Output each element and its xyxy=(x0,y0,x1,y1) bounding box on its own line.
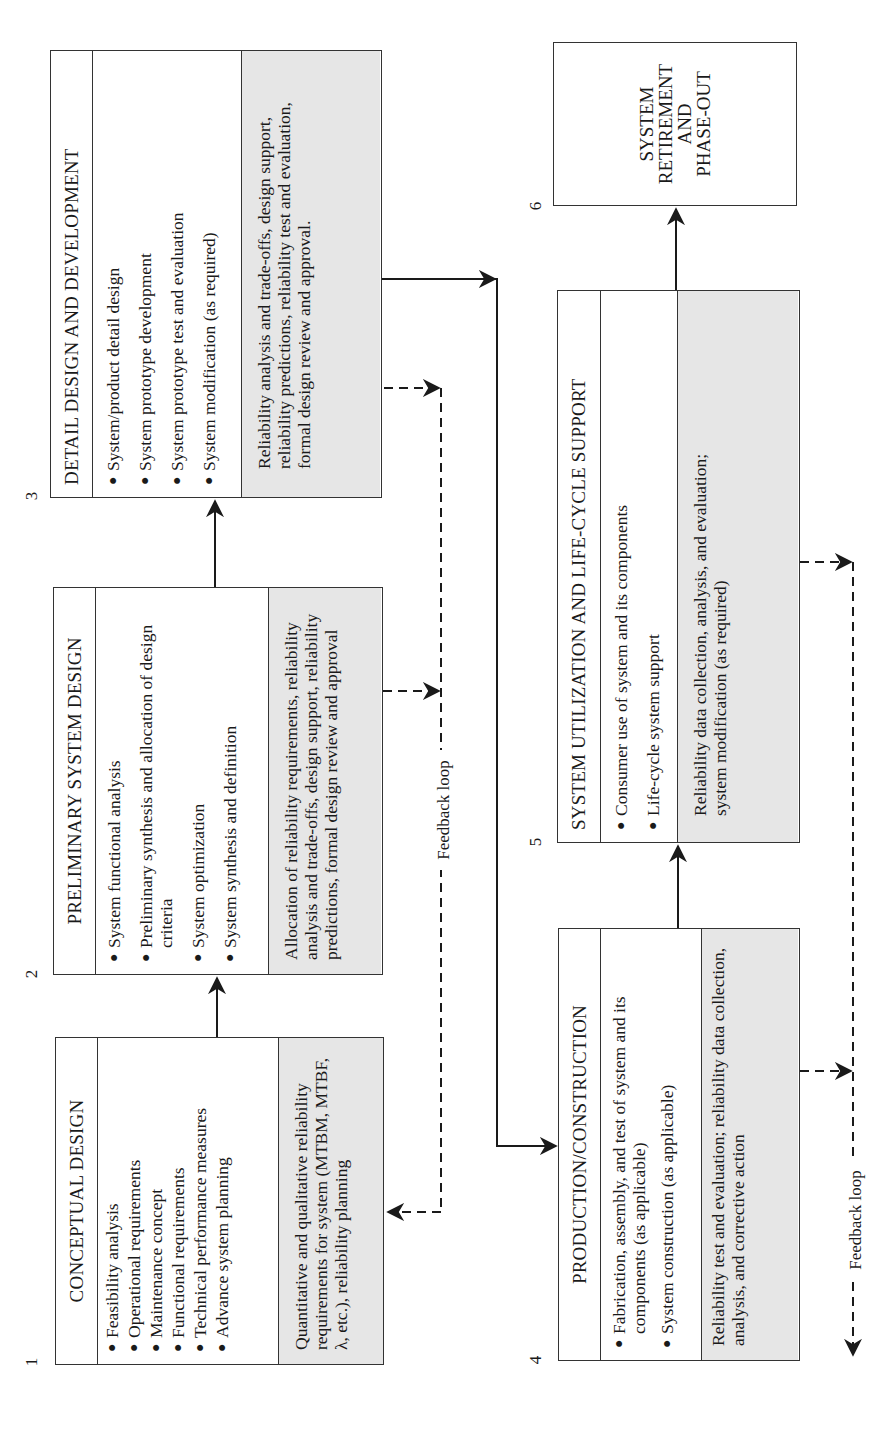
phase-number-5: 5 xyxy=(526,838,546,847)
bullet-icon: ● xyxy=(199,471,219,485)
bullet-icon: ● xyxy=(168,1338,188,1352)
feedback-loop-left xyxy=(383,388,441,1212)
activity-item: ●System construction (as applicable) xyxy=(657,939,677,1348)
activity-item: ●Life-cycle system support xyxy=(643,301,663,830)
phase-title-line: SYSTEM xyxy=(637,87,656,162)
phase-title: CONCEPTUAL DESIGN xyxy=(56,1038,98,1364)
activity-item: ●System optimization xyxy=(188,598,208,962)
activity-list: ●System/product detail design ●System pr… xyxy=(93,51,241,497)
bullet-icon: ● xyxy=(190,1338,210,1352)
reliability-tasks: Reliability analysis and trade-offs, des… xyxy=(241,51,380,497)
activity-list: ●Consumer use of system and its componen… xyxy=(601,291,677,842)
phase-box-preliminary-system-design: PRELIMINARY SYSTEM DESIGN ●System functi… xyxy=(53,587,383,975)
activity-item: ●System functional analysis xyxy=(104,598,124,962)
phase-title: PRODUCTION/CONSTRUCTION xyxy=(559,929,601,1360)
activity-item: ●Fabrication, assembly, and test of syst… xyxy=(609,939,649,1348)
phase-title: DETAIL DESIGN AND DEVELOPMENT xyxy=(51,51,93,497)
activity-list: ●System functional analysis ●Preliminary… xyxy=(96,588,268,974)
activity-item: ●Maintenance concept xyxy=(146,1048,166,1352)
bullet-icon: ● xyxy=(102,1338,122,1352)
activity-item: ●Consumer use of system and its componen… xyxy=(611,301,631,830)
phase-title-line: PHASE-OUT xyxy=(694,71,713,177)
phase-number-3: 3 xyxy=(22,492,42,501)
activity-item: ●System modification (as required) xyxy=(199,61,219,485)
bullet-icon: ● xyxy=(657,1334,677,1348)
phase-number-4: 4 xyxy=(526,1356,546,1365)
bullet-icon: ● xyxy=(188,948,208,962)
reliability-tasks: Reliability test and evaluation; reliabi… xyxy=(701,929,798,1360)
phase-number-2: 2 xyxy=(22,970,42,979)
phase-box-detail-design: DETAIL DESIGN AND DEVELOPMENT ●System/pr… xyxy=(50,50,382,498)
bullet-icon: ● xyxy=(104,948,124,962)
activity-item: ●System synthesis and definition xyxy=(220,598,240,962)
bullet-icon: ● xyxy=(135,471,155,485)
reliability-tasks: Allocation of reliability requirements, … xyxy=(268,588,381,974)
bullet-icon: ● xyxy=(167,471,187,485)
activity-item: ●System prototype development xyxy=(135,61,155,485)
arrow-3-to-4 xyxy=(382,279,556,1146)
activity-list: ●Fabrication, assembly, and test of syst… xyxy=(601,929,701,1360)
phase-box-production-construction: PRODUCTION/CONSTRUCTION ●Fabrication, as… xyxy=(558,928,800,1361)
bullet-icon: ● xyxy=(643,816,663,830)
activity-item: ●Preliminary synthesis and allocation of… xyxy=(136,598,176,962)
activity-item: ●Operational requirements xyxy=(124,1048,144,1352)
activity-item: ●System prototype test and evaluation xyxy=(167,61,187,485)
feedback-loop-label-left: Feedback loop xyxy=(434,750,454,870)
bullet-icon: ● xyxy=(124,1338,144,1352)
phase-number-1: 1 xyxy=(22,1358,42,1367)
bullet-icon: ● xyxy=(103,471,123,485)
bullet-icon: ● xyxy=(220,948,240,962)
bullet-icon: ● xyxy=(212,1338,232,1352)
activity-item: ●Advance system planning xyxy=(212,1048,232,1352)
phase-box-system-retirement: SYSTEM RETIREMENT AND PHASE-OUT xyxy=(553,42,797,206)
phase-title-line: AND xyxy=(675,103,694,144)
reliability-tasks: Reliability data collection, analysis, a… xyxy=(677,291,798,842)
phase-title: SYSTEM UTILIZATION AND LIFE-CYCLE SUPPOR… xyxy=(558,291,601,842)
activity-item: ●Technical performance measures xyxy=(190,1048,210,1352)
phase-number-6: 6 xyxy=(526,202,546,211)
phase-box-conceptual-design: CONCEPTUAL DESIGN ●Feasibility analysis … xyxy=(55,1037,384,1365)
bullet-icon: ● xyxy=(136,948,176,962)
bullet-icon: ● xyxy=(611,816,631,830)
bullet-icon: ● xyxy=(609,1334,649,1348)
reliability-tasks: Quantitative and qualitative reliability… xyxy=(278,1038,383,1364)
bullet-icon: ● xyxy=(146,1338,166,1352)
activity-list: ●Feasibility analysis ●Operational requi… xyxy=(98,1038,278,1364)
feedback-loop-label-right: Feedback loop xyxy=(846,1160,866,1280)
phase-box-system-utilization: SYSTEM UTILIZATION AND LIFE-CYCLE SUPPOR… xyxy=(557,290,800,843)
activity-item: ●System/product detail design xyxy=(103,61,123,485)
phase-title: PRELIMINARY SYSTEM DESIGN xyxy=(54,588,96,974)
activity-item: ●Feasibility analysis xyxy=(102,1048,122,1352)
activity-item: ●Functional requirements xyxy=(168,1048,188,1352)
phase-title-line: RETIREMENT xyxy=(656,64,675,184)
